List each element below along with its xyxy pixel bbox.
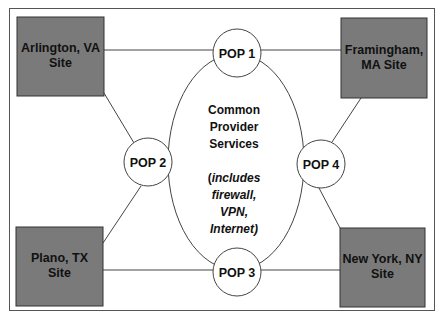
- site-suffix: Site: [371, 267, 394, 281]
- services-title-line: Provider: [210, 120, 259, 134]
- common-services-ellipse: [168, 54, 304, 270]
- site-suffix: MA Site: [361, 58, 406, 72]
- link-plano-pop2: [103, 186, 141, 243]
- services-title-line: Common: [208, 103, 260, 117]
- network-diagram: Arlington, VA Site Framingham, MA Site P…: [0, 0, 444, 324]
- site-name: Framingham,: [345, 43, 424, 57]
- pop-label: POP 4: [303, 158, 340, 172]
- site-suffix: Site: [49, 56, 72, 70]
- link-arlington-pop2: [104, 93, 134, 143]
- site-new-york[interactable]: New York, NY Site: [340, 228, 425, 307]
- pop-label: POP 1: [219, 47, 256, 61]
- services-note-line: firewall,: [212, 188, 257, 202]
- services-title-line: Services: [209, 137, 259, 151]
- site-name: New York, NY: [342, 252, 423, 266]
- services-note-line: Internet): [210, 222, 258, 236]
- pop-node-3[interactable]: POP 3: [213, 248, 261, 296]
- pop-node-2[interactable]: POP 2: [124, 138, 172, 186]
- site-name: Arlington, VA: [21, 41, 100, 55]
- link-framingham-pop4: [332, 98, 361, 142]
- note-text: includes: [212, 171, 261, 185]
- services-note-line: (includes: [208, 171, 261, 185]
- pop-node-1[interactable]: POP 1: [213, 29, 261, 77]
- link-newyork-pop4: [319, 188, 340, 228]
- pop-node-4[interactable]: POP 4: [297, 140, 345, 188]
- site-arlington[interactable]: Arlington, VA Site: [17, 17, 104, 96]
- pop-label: POP 2: [130, 156, 167, 170]
- site-plano[interactable]: Plano, TX Site: [16, 227, 103, 306]
- site-name: Plano, TX: [31, 251, 89, 265]
- pop-label: POP 3: [219, 266, 256, 280]
- site-suffix: Site: [48, 266, 71, 280]
- services-note-line: VPN,: [220, 205, 248, 219]
- site-framingham[interactable]: Framingham, MA Site: [341, 18, 427, 98]
